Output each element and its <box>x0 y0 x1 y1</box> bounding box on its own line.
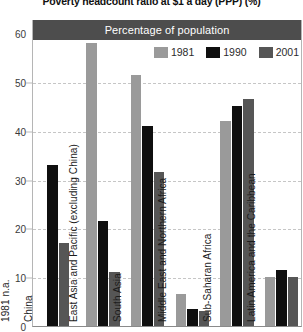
y-tick-label: 10 <box>15 273 26 284</box>
bar[interactable] <box>98 221 109 326</box>
chart-screenshot: Poverty headcount ratio at $1 a day (PPP… <box>0 0 303 332</box>
bar[interactable] <box>47 165 58 326</box>
bar[interactable] <box>265 277 276 326</box>
china-1981-na-note: 1981 n.a. <box>0 279 11 322</box>
bar[interactable] <box>276 270 287 326</box>
bar[interactable] <box>142 126 153 326</box>
bar-group: Latin America and the Caribbean <box>256 20 301 326</box>
y-tick-label: 60 <box>15 29 26 40</box>
category-label: Middle East and Northern Africa <box>157 178 168 322</box>
chart-title: Poverty headcount ratio at $1 a day (PPP… <box>0 0 303 7</box>
category-label: East Asia and Pacific (excluding China) <box>68 144 79 322</box>
bars-layer: China1981 n.a.East Asia and Pacific (exc… <box>33 20 301 326</box>
category-label: China <box>23 295 34 322</box>
bar[interactable] <box>220 121 231 326</box>
y-tick-label: 0 <box>20 322 26 332</box>
bar[interactable] <box>232 106 243 326</box>
y-tick-label: 40 <box>15 126 26 137</box>
y-tick-label: 20 <box>15 224 26 235</box>
category-label: Sub-Saharan Africa <box>202 233 213 322</box>
category-label: Latin America and the Caribbean <box>246 173 257 322</box>
bar[interactable] <box>131 75 142 326</box>
bar[interactable] <box>86 43 97 326</box>
bar[interactable] <box>176 294 187 326</box>
y-tick-label: 30 <box>15 175 26 186</box>
y-tick-label: 50 <box>15 77 26 88</box>
plot-area: Percentage of population 198119902001 Ch… <box>32 20 302 327</box>
bar[interactable] <box>187 309 198 326</box>
category-label: South Asia <box>112 273 123 322</box>
bar[interactable] <box>288 277 299 326</box>
